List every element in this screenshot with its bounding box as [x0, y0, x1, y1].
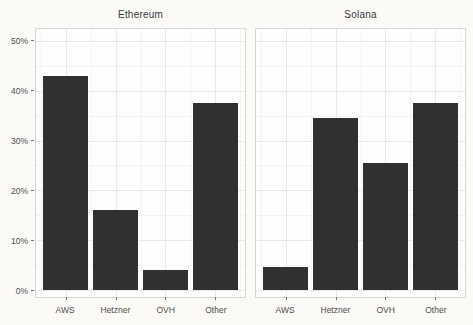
- minor-gridline-v: [240, 29, 241, 297]
- major-gridline-h: [36, 290, 245, 291]
- panels-row: [35, 28, 466, 298]
- x-axis-labels-solana: AWSHetznerOVHOther: [255, 298, 466, 322]
- minor-gridline-v: [361, 29, 362, 297]
- bar-hetzner: [313, 118, 358, 289]
- minor-gridline-v: [190, 29, 191, 297]
- y-tick-label: 40%: [11, 86, 28, 96]
- facet-titles-row: Ethereum Solana: [35, 0, 466, 28]
- bar-aws: [263, 267, 308, 289]
- panel-solana: [255, 28, 466, 298]
- y-tick-label: 10%: [11, 236, 28, 246]
- facet-title-solana: Solana: [255, 0, 466, 28]
- y-axis-tick: [31, 90, 34, 91]
- facet-title-ethereum: Ethereum: [35, 0, 246, 28]
- x-axis-labels-ethereum: AWSHetznerOVHOther: [35, 298, 246, 322]
- bar-aws: [43, 76, 88, 289]
- bar-other: [413, 103, 458, 289]
- minor-gridline-v: [41, 29, 42, 297]
- x-tick-label: OVH: [376, 305, 394, 315]
- major-gridline-v: [165, 29, 166, 297]
- x-tick-label: Hetzner: [100, 305, 130, 315]
- x-tick-label: AWS: [56, 305, 75, 315]
- minor-gridline-v: [311, 29, 312, 297]
- minor-gridline-v: [261, 29, 262, 297]
- bar-ovh: [363, 163, 408, 290]
- major-gridline-h: [256, 41, 465, 42]
- y-axis-tick: [31, 240, 34, 241]
- minor-gridline-v: [460, 29, 461, 297]
- minor-gridline-v: [410, 29, 411, 297]
- y-tick-label: 30%: [11, 136, 28, 146]
- y-tick-label: 50%: [11, 36, 28, 46]
- minor-gridline-v: [91, 29, 92, 297]
- x-tick-label: Hetzner: [320, 305, 350, 315]
- y-tick-label: 20%: [11, 186, 28, 196]
- panel-ethereum: [35, 28, 246, 298]
- x-tick-label: AWS: [276, 305, 295, 315]
- x-tick-label: Other: [425, 305, 446, 315]
- major-gridline-v: [286, 29, 287, 297]
- x-tick-label: OVH: [156, 305, 174, 315]
- y-axis-tick: [31, 40, 34, 41]
- bar-chart-figure: Ethereum Solana 0%10%20%30%40%50% AWSHet…: [0, 0, 473, 325]
- x-axis-row: AWSHetznerOVHOther AWSHetznerOVHOther: [35, 298, 466, 322]
- major-gridline-h: [256, 91, 465, 92]
- x-tick-label: Other: [205, 305, 226, 315]
- y-axis: 0%10%20%30%40%50%: [0, 28, 35, 298]
- bar-ovh: [143, 270, 188, 290]
- minor-gridline-v: [141, 29, 142, 297]
- bar-other: [193, 103, 238, 289]
- y-axis-tick: [31, 190, 34, 191]
- y-tick-label: 0%: [16, 286, 28, 296]
- y-axis-tick: [31, 140, 34, 141]
- bar-hetzner: [93, 210, 138, 289]
- major-gridline-h: [36, 41, 245, 42]
- major-gridline-h: [256, 290, 465, 291]
- y-axis-tick: [31, 290, 34, 291]
